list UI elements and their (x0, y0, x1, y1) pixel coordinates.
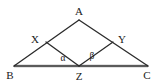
vertex-label-A: A (75, 6, 83, 17)
angle-label-beta: β (90, 52, 95, 62)
vertex-label-B: B (6, 70, 13, 81)
vertex-label-Z: Z (76, 71, 83, 82)
geometry-diagram: A X Y B Z C α β (0, 0, 160, 83)
vertex-label-Y: Y (118, 34, 126, 45)
segment-ZY (79, 42, 113, 66)
vertex-label-C: C (143, 70, 150, 81)
vertex-label-X: X (31, 34, 39, 45)
angle-label-alpha: α (61, 54, 66, 64)
